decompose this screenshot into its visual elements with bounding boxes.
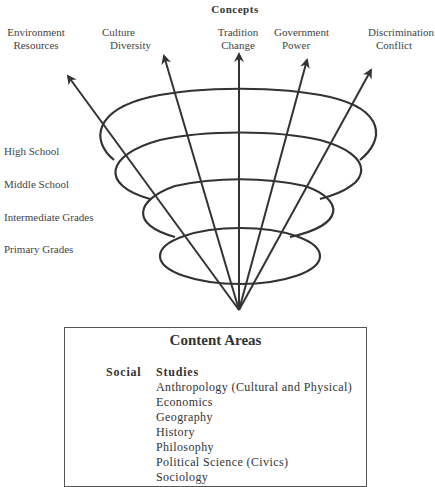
category-social: Social (106, 365, 141, 380)
subject-sociology: Sociology (156, 470, 208, 485)
subject-philosophy: Philosophy (156, 440, 214, 455)
subject-anthropology: Anthropology (Cultural and Physical) (156, 380, 352, 395)
subject-geography: Geography (156, 410, 213, 425)
subject-economics: Economics (156, 395, 213, 410)
category-studies: Studies (156, 365, 199, 380)
content-areas-title: Content Areas (65, 332, 366, 349)
arrow-discrimination-conflict (239, 70, 371, 310)
subject-history: History (156, 425, 195, 440)
arrow-environment-resources (68, 76, 239, 310)
subject-political-science: Political Science (Civics) (156, 455, 288, 470)
